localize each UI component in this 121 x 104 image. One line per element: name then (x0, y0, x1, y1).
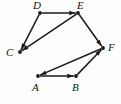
vertex-dot-f (101, 46, 105, 50)
vertex-dot-e (76, 11, 80, 15)
vertex-dot-c (18, 50, 22, 54)
vertex-label-c: C (6, 47, 13, 58)
vertex-dot-b (74, 74, 78, 78)
vertex-label-d: D (33, 0, 41, 11)
vertex-dot-d (38, 11, 42, 15)
directed-graph-diagram: ABCDEF (0, 0, 121, 104)
vertex-label-b: B (72, 82, 79, 93)
arrowhead-f-a (40, 71, 47, 75)
vertex-label-f: F (108, 42, 115, 53)
vertex-label-a: A (32, 82, 39, 93)
arrowhead-a-b (67, 74, 73, 78)
edges-group (21, 11, 102, 78)
graph-canvas (0, 0, 121, 104)
vertex-label-e: E (77, 0, 84, 11)
edge-f-a (40, 49, 101, 75)
vertex-dot-a (36, 74, 40, 78)
